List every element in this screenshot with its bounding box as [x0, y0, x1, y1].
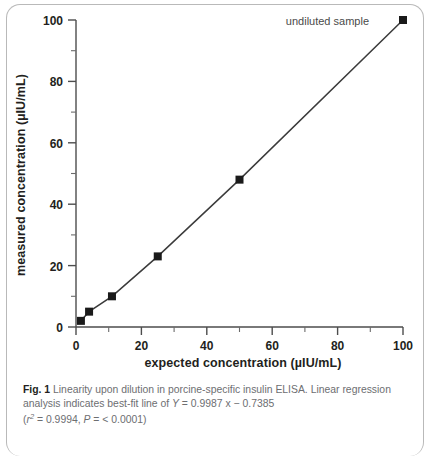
r-value: = 0.9994, — [34, 415, 83, 426]
x-tick-label-40: 40 — [200, 339, 214, 353]
data-point — [154, 252, 162, 260]
best-fit-line — [81, 20, 403, 321]
data-point — [77, 317, 85, 325]
figure-plot-panel: measured concentration (µIU/mL) expected… — [0, 0, 429, 374]
data-point — [399, 16, 407, 24]
p-value: = < 0.0001) — [90, 415, 146, 426]
data-point-markers — [77, 16, 407, 325]
undiluted-sample-annotation: undiluted sample — [286, 15, 369, 27]
x-tick-label-60: 60 — [266, 339, 280, 353]
equation-y-symbol: Y — [172, 398, 179, 409]
x-tick-label-100: 100 — [393, 339, 413, 353]
y-axis-title: measured concentration (µIU/mL) — [14, 74, 28, 276]
data-point — [108, 292, 116, 300]
data-point — [85, 308, 93, 316]
y-tick-label-20: 20 — [50, 260, 64, 274]
linearity-scatter-plot: measured concentration (µIU/mL) expected… — [0, 0, 429, 374]
y-tick-label-0: 0 — [56, 321, 63, 335]
x-tick-label-0: 0 — [73, 339, 80, 353]
x-axis-title: expected concentration (µIU/mL) — [144, 356, 341, 370]
x-tick-label-80: 80 — [331, 339, 345, 353]
figure-caption: Fig. 1 Linearity upon dilution in porcin… — [23, 383, 411, 427]
y-tick-label-80: 80 — [50, 75, 64, 89]
figure-label: Fig. 1 — [23, 384, 50, 395]
x-axis-ticks — [76, 327, 403, 335]
x-tick-label-20: 20 — [135, 339, 149, 353]
y-tick-label-40: 40 — [50, 198, 64, 212]
data-point — [236, 176, 244, 184]
y-tick-label-60: 60 — [50, 137, 64, 151]
equation-body: = 0.9987 x − 0.7385 — [179, 398, 274, 409]
y-tick-label-100: 100 — [43, 14, 63, 28]
y-axis-ticks — [68, 20, 76, 327]
